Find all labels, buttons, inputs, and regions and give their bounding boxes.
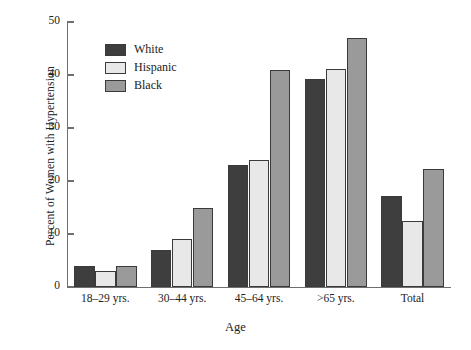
y-axis-title: Percent of Women with Hypertension <box>44 26 56 286</box>
x-tick-label-3: >65 yrs. <box>297 292 374 304</box>
y-tick-label-40: 40 <box>36 67 60 79</box>
bar-black-3 <box>347 38 368 287</box>
bar-white-3 <box>305 79 326 287</box>
bar-black-1 <box>193 208 214 288</box>
legend-label-white: White <box>134 42 163 57</box>
legend-item-hispanic: Hispanic <box>105 59 177 76</box>
legend-label-black: Black <box>134 78 162 93</box>
bar-hispanic-2 <box>249 160 270 287</box>
bar-group <box>228 22 291 287</box>
x-tick-label-4: Total <box>374 292 451 304</box>
legend-swatch-white-icon <box>105 44 126 56</box>
legend-swatch-black-icon <box>105 80 126 92</box>
bar-black-4 <box>423 169 444 287</box>
bar-chart: Percent of Women with Hypertension 01020… <box>0 0 471 350</box>
bar-group <box>381 22 444 287</box>
y-tick-label-10: 10 <box>36 226 60 238</box>
bar-white-2 <box>228 165 249 287</box>
bar-hispanic-3 <box>326 69 347 287</box>
y-tick-label-0: 0 <box>36 279 60 291</box>
legend: White Hispanic Black <box>105 41 177 95</box>
bar-white-4 <box>381 196 402 287</box>
legend-label-hispanic: Hispanic <box>134 60 177 75</box>
y-tick-label-50: 50 <box>36 14 60 26</box>
y-tick-label-20: 20 <box>36 173 60 185</box>
x-tick-label-1: 30–44 yrs. <box>144 292 221 304</box>
bar-white-1 <box>151 250 172 287</box>
bar-group <box>305 22 368 287</box>
bar-white-0 <box>74 266 95 287</box>
bar-hispanic-1 <box>172 239 193 287</box>
x-tick-label-2: 45–64 yrs. <box>221 292 298 304</box>
x-axis-title: Age <box>0 320 471 335</box>
bar-black-2 <box>270 70 291 287</box>
x-tick-label-0: 18–29 yrs. <box>67 292 144 304</box>
legend-swatch-hispanic-icon <box>105 62 126 74</box>
bar-hispanic-4 <box>402 221 423 287</box>
legend-item-black: Black <box>105 77 177 94</box>
y-tick-label-30: 30 <box>36 120 60 132</box>
bar-hispanic-0 <box>95 271 116 287</box>
legend-item-white: White <box>105 41 177 58</box>
bar-black-0 <box>116 266 137 287</box>
